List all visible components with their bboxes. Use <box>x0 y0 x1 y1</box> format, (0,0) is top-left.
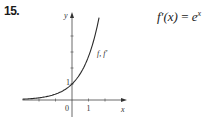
x-axis-arrow <box>121 98 127 102</box>
curve-label: f, f′ <box>97 49 107 58</box>
y-axis-arrow <box>70 12 74 18</box>
x-axis-label: x <box>120 105 125 114</box>
chart: y x 0 1 1 f, f′ <box>0 0 213 118</box>
series-line-f <box>23 18 100 100</box>
origin-tick-label: 0 <box>65 104 69 113</box>
y-tick-label-1: 1 <box>66 78 70 87</box>
y-axis-label: y <box>63 11 68 20</box>
x-tick-label-1: 1 <box>87 104 91 113</box>
